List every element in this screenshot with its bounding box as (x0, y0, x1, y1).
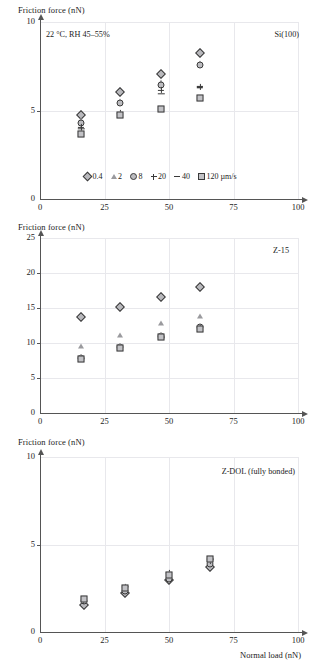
data-point-square (122, 585, 129, 592)
y-tick-label: 10 (13, 451, 35, 461)
data-point-triangle (158, 321, 164, 326)
data-point-square (196, 95, 203, 102)
legend-entry-120--m-s: 120 µm/s (198, 172, 237, 181)
data-point-diamond (156, 69, 166, 79)
data-point-circle (196, 62, 203, 69)
y-tick-label: 5 (13, 539, 35, 549)
data-point-square (166, 572, 173, 579)
legend-square-icon (198, 173, 205, 180)
chart-title-si100: Si(100) (274, 30, 299, 39)
conditions-annotation: 22 °C, RH 45–55% (46, 30, 110, 39)
legend-entry-0.4: 0.4 (84, 172, 103, 181)
y-tick-mark (37, 273, 40, 274)
x-tick-label: 50 (157, 635, 181, 645)
data-point-triangle (117, 333, 123, 338)
x-tick-label: 100 (286, 635, 310, 645)
data-point-triangle (78, 343, 84, 348)
x-axis-line (40, 632, 302, 633)
chart-panel-zdol: Friction force (nN) 05100255075100 Z-DOL… (0, 435, 311, 664)
data-point-square (78, 356, 85, 363)
x-tick-label: 0 (28, 202, 52, 212)
chart-title-z15: Z-15 (273, 246, 289, 255)
y-tick-mark (37, 111, 40, 112)
data-point-square (116, 111, 123, 118)
x-tick-label: 75 (222, 635, 246, 645)
y-tick-label: 5 (13, 372, 35, 382)
x-axis-line (40, 413, 302, 414)
legend-dash-icon (174, 176, 180, 177)
legend-label: 0.4 (93, 172, 103, 181)
legend-label: 40 (182, 172, 190, 181)
chart-panel-si100: Friction force (nN) 05100255075100 22 °C… (0, 0, 311, 220)
x-axis-title: Normal load (nN) (240, 650, 301, 660)
y-axis-title-3: Friction force (nN) (18, 437, 85, 447)
y-tick-mark (37, 545, 40, 546)
grid-line-horizontal (40, 545, 298, 546)
data-point-square (158, 105, 165, 112)
series-legend: 0.4282040120 µm/s (84, 172, 237, 181)
data-point-diamond (195, 48, 205, 58)
grid-line-horizontal (40, 378, 298, 379)
data-point-diamond (115, 302, 125, 312)
data-point-dash (197, 87, 203, 88)
data-point-dash (158, 93, 164, 94)
data-point-diamond (115, 87, 125, 97)
grid-line-vertical (298, 457, 299, 632)
grid-line-vertical (234, 238, 235, 413)
y-tick-mark (37, 308, 40, 309)
legend-plus-icon (151, 174, 157, 180)
x-tick-label: 25 (93, 416, 117, 426)
x-tick-label: 50 (157, 416, 181, 426)
data-point-diamond (76, 312, 86, 322)
y-axis-arrow (38, 449, 44, 455)
x-tick-label: 100 (286, 416, 310, 426)
y-axis-arrow (38, 14, 44, 20)
x-tick-label: 75 (222, 202, 246, 212)
x-tick-label: 25 (93, 202, 117, 212)
data-point-square (116, 344, 123, 351)
x-tick-label: 100 (286, 202, 310, 212)
data-point-square (196, 326, 203, 333)
data-point-square (158, 333, 165, 340)
legend-entry-40: 40 (174, 172, 190, 181)
data-point-square (207, 555, 214, 562)
y-tick-label: 20 (13, 267, 35, 277)
y-tick-mark (37, 343, 40, 344)
x-tick-label: 75 (222, 416, 246, 426)
grid-line-vertical (298, 22, 299, 199)
chart-panel-z15: Friction force (nN) 05101520250255075100… (0, 220, 311, 435)
grid-line-horizontal (40, 457, 298, 458)
grid-line-horizontal (40, 273, 298, 274)
data-point-diamond (156, 292, 166, 302)
grid-line-horizontal (40, 22, 298, 23)
legend-triangle-icon (111, 174, 117, 179)
legend-label: 120 µm/s (206, 172, 236, 181)
x-tick-label: 25 (93, 635, 117, 645)
grid-line-horizontal (40, 238, 298, 239)
x-tick-label: 0 (28, 416, 52, 426)
y-axis-line (40, 455, 41, 632)
y-tick-label: 15 (13, 302, 35, 312)
legend-circle-icon (130, 173, 137, 180)
y-axis-title-2: Friction force (nN) (18, 222, 85, 232)
grid-line-vertical (105, 238, 106, 413)
legend-label: 2 (118, 172, 122, 181)
y-tick-mark (37, 378, 40, 379)
legend-entry-20: 20 (151, 172, 167, 181)
chart-title-zdol: Z-DOL (fully bonded) (222, 467, 295, 476)
y-tick-label: 5 (13, 105, 35, 115)
legend-diamond-icon (83, 172, 93, 182)
y-tick-label: 25 (13, 232, 35, 242)
y-axis-arrow (38, 230, 44, 236)
y-axis-line (40, 236, 41, 413)
grid-line-vertical (169, 238, 170, 413)
grid-line-vertical (298, 238, 299, 413)
y-tick-label: 10 (13, 16, 35, 26)
x-tick-label: 50 (157, 202, 181, 212)
grid-line-horizontal (40, 308, 298, 309)
y-axis-title-1: Friction force (nN) (18, 5, 85, 15)
legend-entry-8: 8 (130, 172, 143, 181)
data-point-square (80, 595, 87, 602)
data-point-diamond (195, 282, 205, 292)
data-point-circle (116, 99, 123, 106)
